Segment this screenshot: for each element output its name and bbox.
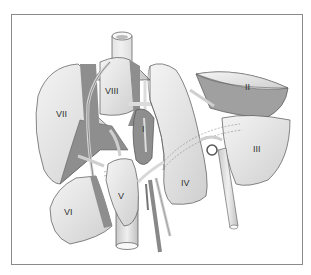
label-segment-viii: VIII [105, 86, 119, 96]
label-segment-ii: II [245, 82, 250, 92]
liver-segments-diagram: VII VIII I II III IV V VI [0, 0, 311, 275]
segment-i [133, 109, 154, 165]
segment-ii [196, 72, 288, 118]
label-segment-v: V [118, 191, 124, 201]
label-segment-vi: VI [64, 207, 73, 217]
label-segment-iii: III [253, 144, 261, 154]
segment-vi [50, 176, 112, 244]
label-segment-i: I [142, 124, 145, 134]
ligament-ring [207, 145, 217, 155]
label-segment-vii: VII [56, 109, 67, 119]
label-segment-iv: IV [181, 178, 190, 188]
